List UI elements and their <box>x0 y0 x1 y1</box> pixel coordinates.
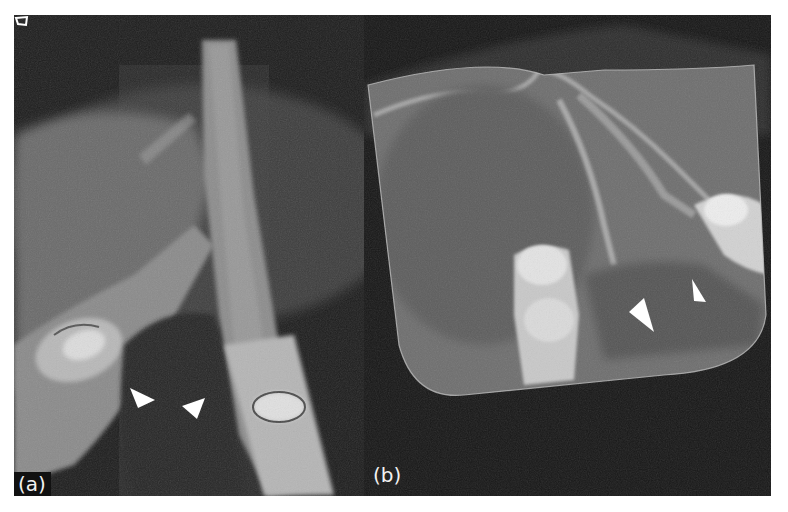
panel-b-radiograph <box>364 15 771 496</box>
figure-two-panel-radiograph: (a) <box>14 15 771 496</box>
panel-label-b: (b) <box>368 461 406 490</box>
panel-a-radiograph <box>14 15 364 496</box>
panel-b: (b) <box>364 15 771 496</box>
panel-a: (a) <box>14 15 364 496</box>
panel-label-a: (a) <box>14 472 51 496</box>
orientation-marker-icon <box>14 15 30 27</box>
